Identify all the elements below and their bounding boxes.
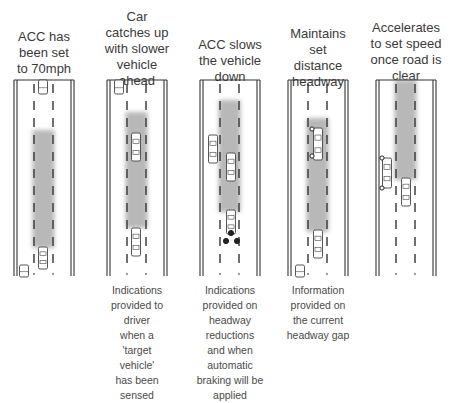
radar-beam (395, 80, 417, 180)
indicator-light-icon (380, 156, 384, 160)
indicator-light-icon (380, 186, 384, 190)
car-ego (402, 178, 411, 206)
car-merging-vehicle (383, 158, 392, 188)
